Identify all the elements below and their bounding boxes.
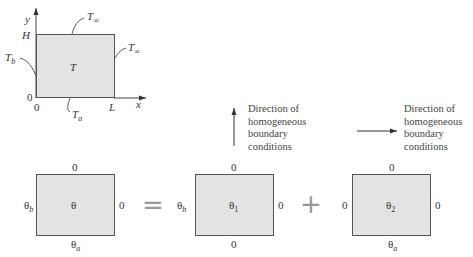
theta1-box-top: 0 <box>231 162 237 177</box>
origin-y-label: 0 <box>27 92 33 103</box>
y-axis-label: y <box>25 14 30 25</box>
leader-bottom <box>68 98 70 112</box>
theta2-box-interior: θ2 <box>386 200 395 215</box>
leader-left <box>20 58 36 76</box>
length-label: L <box>109 102 115 113</box>
top-boundary-label: T∞ <box>87 11 99 26</box>
equals-sign: = <box>142 192 164 218</box>
theta2-box-left: 0 <box>342 200 348 215</box>
right-boundary-label: T∞ <box>128 42 140 57</box>
theta-box-right: 0 <box>119 200 125 215</box>
x-axis-label: x <box>136 99 141 110</box>
vertical-direction-note: Direction of homogeneous boundary condit… <box>248 103 306 153</box>
theta1-box-bottom: 0 <box>231 239 237 254</box>
theta1-box-right: 0 <box>278 200 284 215</box>
horizontal-direction-note: Direction of homogeneous boundary condit… <box>404 103 462 153</box>
leader-top <box>72 18 84 34</box>
height-label: H <box>22 30 30 41</box>
theta2-box-bottom: θa <box>388 239 397 254</box>
theta2-box-top: 0 <box>389 162 395 177</box>
leader-right <box>114 48 126 60</box>
origin-x-label: 0 <box>34 102 40 113</box>
left-boundary-label: Tb <box>5 52 15 67</box>
interior-temperature-label: T <box>70 62 76 73</box>
bottom-boundary-label: Ta <box>72 109 82 124</box>
theta1-box-left: θb <box>177 200 186 215</box>
plus-sign: + <box>300 191 322 217</box>
theta-box-top: 0 <box>72 162 78 177</box>
theta-box-bottom: θa <box>71 239 80 254</box>
theta1-box-interior: θ1 <box>229 200 238 215</box>
theta2-box-right: 0 <box>435 200 441 215</box>
theta-box-interior: θ <box>71 200 76 215</box>
theta-box-left: θb <box>24 200 33 215</box>
